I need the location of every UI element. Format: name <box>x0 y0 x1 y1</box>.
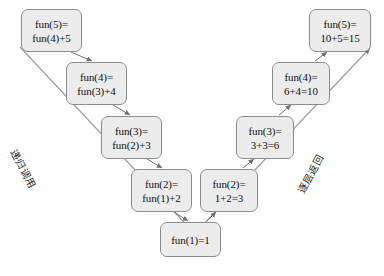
node-call-fun5: fun(5)= fun(4)+5 <box>21 9 82 52</box>
node-line-1: fun(1)=1 <box>171 233 209 247</box>
node-base-fun1: fun(1)=1 <box>160 222 221 257</box>
node-line-1: fun(4)= <box>80 70 113 84</box>
node-return-fun3: fun(3)= 3+3=6 <box>236 116 294 159</box>
node-call-fun2: fun(2)= fun(1)+2 <box>131 169 192 212</box>
node-line-1: fun(3)= <box>115 124 148 138</box>
node-line-1: fun(4)= <box>285 70 318 84</box>
node-line-2: fun(1)+2 <box>142 191 180 205</box>
connector-call-fun3-to-fun2 <box>147 159 162 168</box>
node-return-fun4: fun(4)= 6+4=10 <box>272 62 330 105</box>
node-line-1: fun(5)= <box>35 17 68 31</box>
node-line-2: 3+3=6 <box>251 138 279 152</box>
node-line-1: fun(3)= <box>249 124 282 138</box>
connector-return-fun2-to-fun3 <box>243 159 254 168</box>
connector-call-fun5-to-fun4 <box>71 52 92 61</box>
node-call-fun4: fun(4)= fun(3)+4 <box>66 62 127 105</box>
node-line-2: 6+4=10 <box>284 84 318 98</box>
node-return-fun2: fun(2)= 1+2=3 <box>200 169 258 212</box>
connector-return-fun3-to-fun4 <box>279 105 291 115</box>
node-line-2: 10+5=15 <box>320 31 359 45</box>
connector-base-to-return-fun2 <box>207 212 216 221</box>
node-return-fun5: fun(5)= 10+5=15 <box>309 9 371 52</box>
node-line-1: fun(5)= <box>324 17 357 31</box>
node-line-2: fun(3)+4 <box>77 84 115 98</box>
node-call-fun3: fun(3)= fun(2)+3 <box>101 116 162 159</box>
node-line-2: fun(4)+5 <box>32 31 70 45</box>
node-line-2: fun(2)+3 <box>112 138 150 152</box>
connector-call-fun4-to-fun3 <box>113 105 130 115</box>
recursion-diagram: fun(5)= fun(4)+5 fun(4)= fun(3)+4 fun(3)… <box>0 0 384 276</box>
node-line-1: fun(2)= <box>145 177 178 191</box>
connector-return-fun4-to-fun5 <box>315 52 327 61</box>
node-line-2: 1+2=3 <box>215 191 243 205</box>
node-line-1: fun(2)= <box>213 177 246 191</box>
